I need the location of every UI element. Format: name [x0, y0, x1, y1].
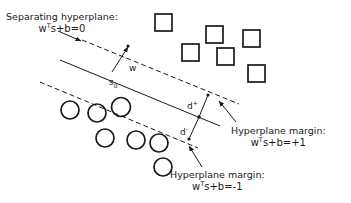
w-vector-endpoint-dot: [126, 44, 129, 47]
d-minus-segment: [189, 117, 199, 139]
margin-negative-equation: wTs+b=-1: [192, 181, 243, 192]
data-point-circle: [112, 98, 131, 117]
margin-negative-pointer-arrow: [189, 146, 202, 167]
data-point-square: [243, 30, 260, 47]
margin-positive-label: Hyperplane margin: wTs+b=+1: [231, 126, 326, 149]
data-point-circle: [150, 134, 168, 152]
data-point-square: [248, 65, 265, 82]
w-vector-arrow: [112, 47, 128, 72]
separating-hyperplane-equation: wTs+b=0: [38, 23, 85, 34]
data-point-circle: [96, 129, 114, 147]
distance-minus-label: d-: [180, 126, 188, 137]
margin-positive-pointer-arrow: [219, 101, 236, 122]
positive-class-markers: [155, 14, 265, 82]
data-point-square: [182, 44, 199, 61]
data-point-square: [155, 14, 172, 31]
negative-class-markers: [61, 98, 172, 177]
data-point-circle: [61, 101, 79, 119]
separating-hyperplane-label-line1: Separating hyperplane:: [6, 11, 118, 22]
margin-positive-equation: wTs+b=+1: [251, 137, 306, 148]
margin-positive-label-line1: Hyperplane margin:: [231, 125, 326, 136]
distance-minus-superscript: -: [186, 125, 188, 132]
d-plus-bottom-dot: [197, 115, 201, 119]
margin-negative-line: [40, 82, 198, 148]
margin-positive-line: [82, 40, 239, 104]
support-point-subscript: 0: [114, 82, 118, 89]
data-point-square: [206, 26, 223, 43]
margin-negative-label-line1: Hyperplane margin:: [170, 169, 265, 180]
separating-hyperplane-line: [60, 60, 220, 126]
data-point-circle: [127, 131, 145, 149]
distance-plus-superscript: +: [193, 99, 198, 106]
d-plus-segment: [199, 95, 208, 117]
data-point-circle: [88, 104, 106, 122]
weight-vector-label: w: [129, 63, 136, 73]
margin-negative-label: Hyperplane margin: wTs+b=-1: [170, 170, 265, 193]
data-point-square: [217, 48, 234, 65]
support-point-label: s0: [109, 77, 117, 90]
annotation-arrows: [58, 31, 236, 167]
separating-hyperplane-label: Separating hyperplane: wTs+b=0: [6, 12, 118, 35]
d-plus-top-dot: [206, 93, 209, 96]
d-minus-bottom-dot: [187, 137, 190, 140]
distance-plus-label: d+: [187, 100, 198, 111]
